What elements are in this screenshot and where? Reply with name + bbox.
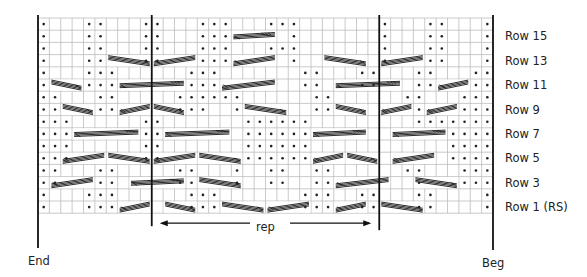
purl-dot [486, 194, 489, 197]
cable-cross-symbol [266, 202, 311, 213]
purl-dot [463, 169, 466, 172]
purl-dot [475, 145, 478, 148]
purl-dot [475, 72, 478, 75]
purl-dot [270, 133, 273, 136]
cable-cross-symbol [152, 55, 197, 66]
purl-dot [54, 133, 57, 136]
purl-dot [361, 84, 364, 87]
purl-dot [441, 23, 444, 26]
purl-dot [429, 72, 432, 75]
purl-dot [145, 23, 148, 26]
purl-dot [327, 96, 330, 99]
cable-cross-symbol [73, 128, 140, 139]
purl-dot [315, 84, 318, 87]
rep-label: rep [256, 220, 275, 234]
purl-dot [99, 206, 102, 209]
purl-dot [42, 35, 45, 38]
purl-dot [463, 181, 466, 184]
purl-dot [190, 108, 193, 111]
purl-dot [327, 108, 330, 111]
purl-dot [327, 194, 330, 197]
cable-cross-symbol [164, 128, 231, 139]
purl-dot [65, 145, 68, 148]
purl-dot [99, 194, 102, 197]
purl-dot [156, 59, 159, 62]
purl-dot [486, 35, 489, 38]
purl-dot [99, 59, 102, 62]
purl-dot [441, 120, 444, 123]
purl-dot [247, 145, 250, 148]
purl-dot [190, 206, 193, 209]
purl-dot [475, 84, 478, 87]
row-label: Row 13 [505, 54, 547, 68]
purl-dot [304, 157, 307, 160]
purl-dot [190, 194, 193, 197]
purl-dot [99, 84, 102, 87]
knitting-cable-chart [0, 0, 587, 277]
purl-dot [145, 120, 148, 123]
purl-dot [486, 84, 489, 87]
purl-dot [99, 96, 102, 99]
purl-dot [304, 145, 307, 148]
purl-dot [247, 157, 250, 160]
purl-dot [213, 206, 216, 209]
purl-dot [418, 181, 421, 184]
row-label: Row 7 [505, 127, 540, 141]
cable-cross-symbol [50, 80, 83, 91]
purl-dot [88, 72, 91, 75]
purl-dot [145, 59, 148, 62]
purl-dot [327, 206, 330, 209]
purl-dot [42, 96, 45, 99]
purl-dot [327, 169, 330, 172]
purl-dot [88, 194, 91, 197]
purl-dot [190, 96, 193, 99]
purl-dot [54, 145, 57, 148]
purl-dot [42, 47, 45, 50]
purl-dot [452, 157, 455, 160]
cable-cross-symbol [118, 202, 151, 213]
purl-dot [179, 108, 182, 111]
beg-label: Beg [482, 256, 504, 270]
purl-dot [202, 47, 205, 50]
purl-dot [156, 47, 159, 50]
row-label: Row 3 [505, 176, 540, 190]
purl-dot [190, 84, 193, 87]
purl-dot [475, 169, 478, 172]
purl-dot [202, 194, 205, 197]
purl-dot [486, 72, 489, 75]
purl-dot [429, 120, 432, 123]
purl-dot [429, 84, 432, 87]
purl-dot [156, 157, 159, 160]
purl-dot [88, 59, 91, 62]
arrow-right-icon [363, 220, 371, 226]
purl-dot [384, 23, 387, 26]
cable-cross-symbol [198, 177, 243, 188]
purl-dot [145, 145, 148, 148]
purl-dot [315, 181, 318, 184]
purl-dot [145, 35, 148, 38]
purl-dot [293, 23, 296, 26]
purl-dot [224, 47, 227, 50]
purl-dot [281, 133, 284, 136]
purl-dot [54, 108, 57, 111]
purl-dot [236, 108, 239, 111]
cable-cross-symbol [118, 104, 151, 115]
purl-dot [99, 35, 102, 38]
purl-dot [486, 181, 489, 184]
purl-dot [213, 59, 216, 62]
purl-dot [190, 72, 193, 75]
purl-dot [406, 169, 409, 172]
arrow-left-icon [160, 220, 168, 226]
purl-dot [247, 120, 250, 123]
cable-cross-symbol [380, 104, 413, 115]
purl-dot [486, 157, 489, 160]
purl-dot [281, 169, 284, 172]
purl-dot [111, 84, 114, 87]
purl-dot [156, 35, 159, 38]
purl-dot [111, 169, 114, 172]
cable-cross-symbol [425, 104, 458, 115]
purl-dot [429, 47, 432, 50]
purl-dot [224, 96, 227, 99]
purl-dot [281, 23, 284, 26]
purl-dot [418, 194, 421, 197]
